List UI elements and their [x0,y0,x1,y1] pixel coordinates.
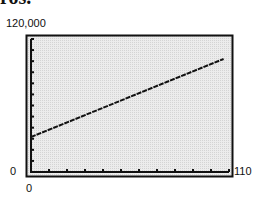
outer-frame [27,36,233,177]
calculator-graph [0,0,255,197]
